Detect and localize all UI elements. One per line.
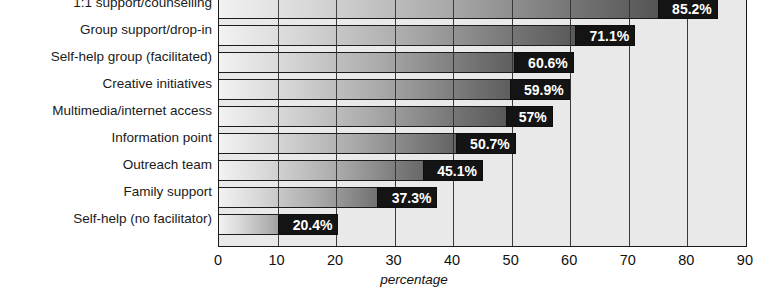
bar-value-label: 59.9%: [510, 79, 570, 100]
x-tick-label: 30: [386, 252, 402, 268]
bar-value-label: 60.6%: [514, 52, 574, 73]
bar: [219, 0, 718, 19]
category-label: Information point: [111, 131, 212, 145]
plot-area: 85.2% 71.1% 60.6% 59.9% 57% 50.7% 45.1% …: [218, 0, 747, 247]
bar: [219, 25, 635, 46]
bar-value-label: 45.1%: [423, 160, 483, 181]
x-tick-label: 90: [737, 252, 753, 268]
category-label: Multimedia/internet access: [52, 104, 212, 118]
category-label: Group support/drop-in: [80, 23, 212, 37]
category-label: Self-help (no facilitator): [73, 212, 212, 226]
category-label: Creative initiatives: [102, 77, 212, 91]
category-label: Outreach team: [123, 158, 212, 172]
bar-value-label: 71.1%: [575, 25, 635, 46]
x-axis-title: percentage: [0, 272, 760, 287]
horizontal-bar-chart: 1:1 support/counselling Group support/dr…: [0, 0, 760, 296]
x-tick-label: 20: [327, 252, 343, 268]
bar: [219, 106, 553, 127]
x-tick-label: 70: [620, 252, 636, 268]
x-tick-label: 60: [561, 252, 577, 268]
category-label: Family support: [123, 185, 212, 199]
x-axis-title-text: percentage: [380, 272, 448, 287]
category-label: Self-help group (facilitated): [51, 50, 212, 64]
bar-value-label: 85.2%: [658, 0, 718, 19]
bar-value-label: 50.7%: [456, 133, 516, 154]
bar-value-label: 37.3%: [377, 187, 437, 208]
x-tick-label: 80: [678, 252, 694, 268]
x-tick-label: 50: [503, 252, 519, 268]
bar-value-label: 57%: [506, 106, 553, 127]
x-tick-label: 40: [444, 252, 460, 268]
bar-value-label: 20.4%: [278, 214, 338, 235]
category-label: 1:1 support/counselling: [73, 0, 212, 10]
x-tick-label: 0: [214, 252, 222, 268]
gridline: [687, 0, 688, 246]
x-tick-label: 10: [268, 252, 284, 268]
